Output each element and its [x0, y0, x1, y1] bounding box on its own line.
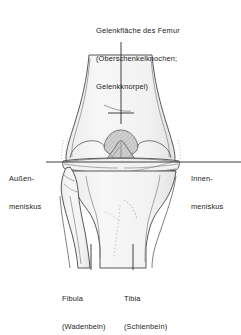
lateral-collateral-striation-a [62, 140, 64, 160]
label-lateral-meniscus: Außen- meniskus [9, 155, 41, 221]
label-tibia-line1: Tibia [124, 294, 167, 303]
label-femur: Gelenkfläche des Femur (Oberschenkelknoc… [96, 7, 180, 101]
label-lateral-meniscus-line1: Außen- [9, 174, 41, 183]
label-medial-meniscus: Innen- meniskus [191, 155, 223, 221]
label-femur-line1: Gelenkfläche des Femur [96, 26, 180, 35]
label-tibia: Tibia (Schienbein) [124, 275, 167, 335]
label-fibula-line2: (Wadenbein) [62, 322, 106, 331]
label-fibula: Fibula (Wadenbein) [62, 275, 106, 335]
label-tibia-line2: (Schienbein) [124, 322, 167, 331]
label-medial-meniscus-line1: Innen- [191, 174, 223, 183]
label-femur-line3: Gelenkknorpel) [96, 82, 180, 91]
label-femur-line2: (Oberschenkelknochen; [96, 54, 180, 63]
label-fibula-line1: Fibula [62, 294, 106, 303]
label-lateral-meniscus-line2: meniskus [9, 202, 41, 211]
medial-collateral-striation [178, 140, 180, 160]
label-medial-meniscus-line2: meniskus [191, 202, 223, 211]
